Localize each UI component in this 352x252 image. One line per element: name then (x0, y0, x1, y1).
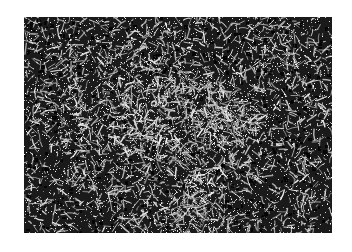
image-frame (0, 0, 352, 252)
fiber-noise-texture (24, 17, 332, 233)
